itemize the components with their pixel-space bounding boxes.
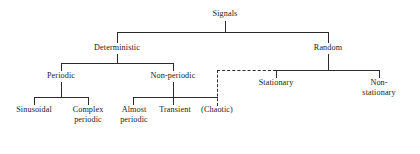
edge-periodic-to-complex-periodic xyxy=(88,97,89,105)
node-deterministic: Deterministic xyxy=(94,43,140,53)
edge-random-to-stationary xyxy=(276,70,277,78)
edge-non-periodic-to-transient xyxy=(173,97,174,105)
edge-periodic-bus xyxy=(34,97,89,98)
signals-classification-diagram: Signals Deterministic Random Periodic No… xyxy=(0,0,420,154)
edge-dashed-chaotic-stem xyxy=(217,70,218,106)
edge-periodic-to-sinusoidal xyxy=(34,97,35,105)
node-sinusoidal: Sinusoidal xyxy=(16,105,52,115)
edge-non-periodic-bus xyxy=(133,97,218,98)
node-non-periodic: Non-periodic xyxy=(151,71,196,81)
edge-signals-stem xyxy=(225,21,226,32)
node-signals: Signals xyxy=(213,9,238,19)
edge-deterministic-stem xyxy=(117,54,118,63)
edge-periodic-stem xyxy=(61,82,62,97)
edge-random-bus xyxy=(276,70,380,71)
edge-random-stem xyxy=(328,54,329,70)
node-complex-periodic: Complex periodic xyxy=(73,105,104,124)
node-periodic: Periodic xyxy=(47,71,75,81)
node-non-stationary: Non-stationary xyxy=(359,78,400,97)
node-stationary: Stationary xyxy=(259,78,294,88)
node-almost-periodic: Almost periodic xyxy=(120,105,148,124)
edge-random-to-non-stationary xyxy=(379,70,380,78)
edge-signals-bus xyxy=(117,32,329,33)
node-chaotic: (Chaotic) xyxy=(201,105,233,115)
edge-signals-to-random xyxy=(328,32,329,43)
node-random: Random xyxy=(314,43,342,53)
edge-signals-to-deterministic xyxy=(117,32,118,43)
edge-deterministic-bus xyxy=(61,63,174,64)
edge-deterministic-to-periodic xyxy=(61,63,62,71)
edge-deterministic-to-non-periodic xyxy=(173,63,174,71)
edge-non-periodic-stem xyxy=(173,82,174,97)
edge-dashed-chaotic-to-random xyxy=(217,70,276,71)
node-transient: Transient xyxy=(159,105,191,115)
edge-non-periodic-to-almost-periodic xyxy=(133,97,134,105)
